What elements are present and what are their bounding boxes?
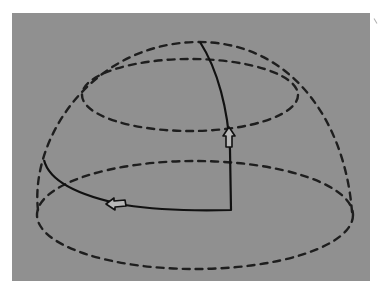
lower-latitude-circle — [37, 161, 353, 269]
left-arrow-icon — [106, 198, 126, 210]
upper-latitude-circle — [82, 59, 298, 131]
dome-outline — [37, 42, 352, 212]
hemisphere-diagram — [0, 0, 382, 305]
